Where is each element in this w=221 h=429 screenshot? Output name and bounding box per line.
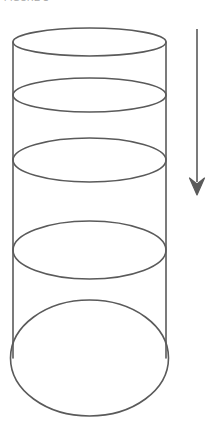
- cross-section-ellipse-5: [11, 300, 169, 416]
- figure-container: FIGURE 1: [0, 0, 221, 429]
- cylinder-diagram-svg: [0, 0, 221, 429]
- cross-section-ellipse-2: [13, 78, 166, 112]
- cross-section-ellipse-4: [13, 221, 166, 279]
- cross-section-ellipse-3: [13, 138, 166, 182]
- direction-arrow: [190, 29, 205, 195]
- cross-section-ellipse-1: [13, 28, 166, 56]
- cylinder-group: [11, 28, 169, 416]
